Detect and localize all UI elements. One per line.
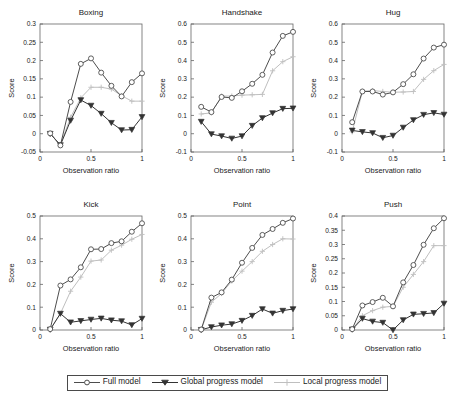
panel-grid: Boxing-0.0500.050.10.150.20.250.300.51Ob… [0,0,453,370]
svg-text:0: 0 [334,326,338,333]
svg-text:0.2: 0.2 [27,281,36,288]
svg-text:0.1: 0.1 [329,112,338,119]
svg-text:0: 0 [183,326,187,333]
svg-text:0: 0 [340,333,344,340]
svg-text:0.5: 0.5 [86,333,95,340]
svg-text:1: 1 [442,333,446,340]
svg-text:0.5: 0.5 [388,333,397,340]
svg-text:0.05: 0.05 [325,312,338,319]
svg-text:0.3: 0.3 [27,258,36,265]
svg-text:0.4: 0.4 [178,57,187,64]
chart-panel-hug: Hug-0.100.10.20.30.40.50.600.51Observati… [302,0,453,192]
chart-panel-kick: Kick00.10.20.30.40.500.51Observation rat… [0,192,151,370]
svg-text:Observation ratio: Observation ratio [214,166,270,175]
svg-text:0.5: 0.5 [178,212,187,219]
svg-text:0.4: 0.4 [27,235,36,242]
svg-text:Observation ratio: Observation ratio [365,166,421,175]
svg-text:Score: Score [7,263,16,282]
svg-text:0.3: 0.3 [178,75,187,82]
svg-text:Handshake: Handshake [222,8,263,17]
svg-text:0: 0 [38,333,42,340]
svg-text:0: 0 [340,155,344,162]
svg-text:0.1: 0.1 [178,304,187,311]
chart-panel-handshake: Handshake-0.100.10.20.30.40.50.600.51Obs… [151,0,302,192]
svg-text:0: 0 [183,130,187,137]
legend-entry-full-model: Full model [74,378,141,387]
svg-text:0.3: 0.3 [329,241,338,248]
svg-text:Hug: Hug [386,8,401,17]
svg-text:0.5: 0.5 [329,39,338,46]
svg-text:0.25: 0.25 [23,39,36,46]
svg-text:0.5: 0.5 [388,155,397,162]
chart-panel-boxing: Boxing-0.0500.050.10.150.20.250.300.51Ob… [0,0,151,192]
legend-entry-local-progress-model: Local progress model [274,378,381,387]
svg-text:0.15: 0.15 [23,75,36,82]
svg-text:0.4: 0.4 [178,235,187,242]
svg-text:-0.1: -0.1 [176,148,188,155]
svg-text:Kick: Kick [83,200,99,209]
svg-text:0.35: 0.35 [325,227,338,234]
svg-text:-0.05: -0.05 [21,148,36,155]
chart-panel-point: Point00.10.20.30.40.500.51Observation ra… [151,192,302,370]
svg-text:0.5: 0.5 [27,212,36,219]
svg-text:Score: Score [158,78,167,97]
svg-text:1: 1 [291,333,295,340]
legend: Full model Global progress model Local p… [67,375,388,391]
svg-text:0.3: 0.3 [329,75,338,82]
svg-text:Score: Score [7,78,16,97]
svg-text:0.1: 0.1 [329,298,338,305]
svg-text:0.5: 0.5 [178,39,187,46]
figure-container: Boxing-0.0500.050.10.150.20.250.300.51Ob… [0,0,455,405]
svg-text:0.2: 0.2 [178,93,187,100]
svg-text:1: 1 [140,155,144,162]
svg-text:0.3: 0.3 [178,258,187,265]
svg-text:Score: Score [309,78,318,97]
legend-marker-plus-icon [274,378,300,387]
svg-text:0: 0 [334,130,338,137]
legend-label-local-progress-model: Local progress model [303,378,381,386]
chart-panel-push: Push00.050.10.150.20.250.30.350.400.51Ob… [302,192,453,370]
svg-text:0.2: 0.2 [329,269,338,276]
svg-text:1: 1 [291,155,295,162]
svg-text:0.5: 0.5 [86,155,95,162]
svg-text:0.6: 0.6 [178,20,187,27]
svg-text:0.4: 0.4 [329,212,338,219]
legend-label-full-model: Full model [103,378,141,386]
svg-text:Score: Score [158,263,167,282]
legend-marker-triangle-down-icon [152,378,178,387]
svg-text:0: 0 [189,155,193,162]
svg-text:-0.1: -0.1 [327,148,339,155]
svg-text:0.6: 0.6 [329,20,338,27]
svg-text:0.1: 0.1 [27,93,36,100]
svg-text:0: 0 [38,155,42,162]
legend-wrap: Full model Global progress model Local p… [0,375,455,391]
svg-text:Score: Score [309,263,318,282]
svg-text:0.1: 0.1 [178,112,187,119]
svg-text:0: 0 [32,130,36,137]
legend-marker-circle-icon [74,378,100,387]
svg-text:0.2: 0.2 [329,93,338,100]
svg-text:Push: Push [384,200,402,209]
svg-text:0.1: 0.1 [27,304,36,311]
svg-text:0.25: 0.25 [325,255,338,262]
legend-entry-global-progress-model: Global progress model [152,378,263,387]
svg-text:0.5: 0.5 [237,333,246,340]
svg-text:Observation ratio: Observation ratio [63,344,119,353]
svg-text:0.2: 0.2 [27,57,36,64]
svg-text:0.05: 0.05 [23,112,36,119]
svg-text:0: 0 [32,326,36,333]
svg-text:1: 1 [442,155,446,162]
svg-text:0.5: 0.5 [237,155,246,162]
svg-text:Observation ratio: Observation ratio [214,344,270,353]
svg-text:Point: Point [233,200,252,209]
svg-text:0.2: 0.2 [178,281,187,288]
svg-text:0.4: 0.4 [329,57,338,64]
svg-text:1: 1 [140,333,144,340]
svg-text:0.3: 0.3 [27,20,36,27]
svg-text:Observation ratio: Observation ratio [63,166,119,175]
svg-text:0.15: 0.15 [325,284,338,291]
svg-text:Boxing: Boxing [79,8,103,17]
svg-text:Observation ratio: Observation ratio [365,344,421,353]
svg-text:0: 0 [189,333,193,340]
legend-label-global-progress-model: Global progress model [181,378,263,386]
